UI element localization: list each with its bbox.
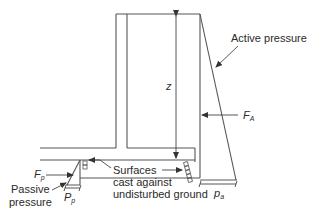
fa-resultant: FA	[202, 109, 255, 122]
surfaces-label-line2: cast against	[113, 176, 172, 188]
passive-hypotenuse	[67, 160, 80, 185]
active-pressure-arrow	[216, 46, 238, 67]
surfaces-label-line3: undisturbed ground	[113, 188, 208, 200]
pp-label: Pp	[64, 191, 75, 205]
active-pressure-callout: Active pressure	[216, 32, 307, 67]
fp-label: Fp	[34, 168, 45, 182]
passive-label-line2: pressure	[9, 196, 52, 208]
passive-label-line1: Passive	[11, 183, 50, 195]
retaining-wall-diagram: z pa Active pressure FA Fp Pp Passive pr…	[0, 0, 321, 213]
undisturbed-ground-hatch-left	[83, 161, 87, 169]
undisturbed-ground-hatch-right	[184, 162, 193, 183]
pa-label: pa	[213, 187, 224, 200]
fa-label: FA	[243, 109, 255, 122]
passive-pressure-arrow	[52, 183, 66, 190]
surfaces-arrow-left	[89, 160, 111, 168]
z-label: z	[165, 80, 172, 92]
z-dimension: z	[165, 16, 176, 158]
surfaces-callout: Surfaces cast against undisturbed ground	[89, 160, 208, 200]
passive-pressure-callout: Passive pressure	[9, 183, 66, 208]
active-pressure-label: Active pressure	[231, 32, 307, 44]
surfaces-label-line1: Surfaces	[113, 164, 157, 176]
